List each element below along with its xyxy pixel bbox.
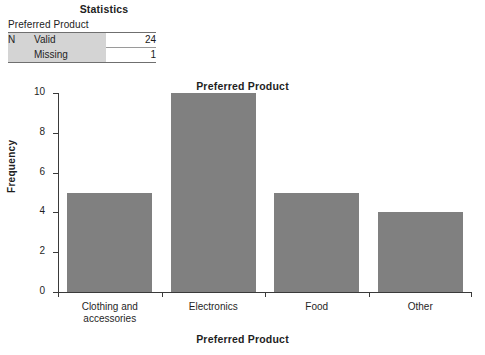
- plot-area: 0246810 Clothing andaccessoriesElectroni…: [58, 93, 472, 292]
- category-label-line: Electronics: [162, 301, 266, 313]
- y-tick-label: 10: [34, 86, 45, 97]
- x-tick: [265, 292, 266, 297]
- table-row: Missing 1: [8, 48, 156, 63]
- y-tick-label: 4: [39, 205, 45, 216]
- category-label-line: Other: [369, 301, 473, 313]
- category-label-line: accessories: [58, 313, 162, 325]
- y-axis-line: [58, 93, 59, 292]
- y-tick-label: 8: [39, 126, 45, 137]
- y-axis-label: Frequency: [6, 140, 17, 193]
- category-label-line: Clothing and: [58, 301, 162, 313]
- row-value-missing: 1: [106, 48, 156, 63]
- y-tick-label: 6: [39, 166, 45, 177]
- y-tick: 6: [53, 173, 58, 174]
- statistics-table-block: Statistics Preferred Product N Valid 24 …: [0, 0, 200, 63]
- bar-electronics: [171, 93, 256, 292]
- y-tick-label: 0: [39, 285, 45, 296]
- category-label: Food: [265, 301, 369, 313]
- x-tick: [369, 292, 370, 297]
- row-label-missing: Missing: [34, 48, 106, 63]
- statistics-table: N Valid 24 Missing 1: [8, 32, 156, 63]
- row-label-valid: Valid: [34, 33, 106, 48]
- bar-food: [274, 193, 359, 293]
- statistics-subtitle: Preferred Product: [0, 15, 200, 32]
- x-tick: [162, 292, 163, 297]
- bar-chart: Preferred Product Frequency 0246810 Clot…: [0, 75, 485, 355]
- row-group-label: N: [8, 33, 34, 48]
- x-tick: [58, 292, 59, 297]
- y-tick: 10: [53, 93, 58, 94]
- category-label: Clothing andaccessories: [58, 301, 162, 324]
- row-value-valid: 24: [106, 33, 156, 48]
- x-axis-label: Preferred Product: [0, 333, 485, 345]
- y-tick-label: 2: [39, 245, 45, 256]
- y-tick: 8: [53, 133, 58, 134]
- category-label-line: Food: [265, 301, 369, 313]
- bar-other: [378, 212, 463, 292]
- row-group-label-empty: [8, 48, 34, 63]
- chart-title: Preferred Product: [0, 80, 485, 92]
- bar-clothing-and-accessories: [67, 193, 152, 293]
- y-tick: 4: [53, 212, 58, 213]
- category-label: Electronics: [162, 301, 266, 313]
- x-tick: [471, 292, 472, 297]
- table-row: N Valid 24: [8, 33, 156, 48]
- category-label: Other: [369, 301, 473, 313]
- y-tick: 2: [53, 252, 58, 253]
- statistics-title: Statistics: [0, 0, 200, 15]
